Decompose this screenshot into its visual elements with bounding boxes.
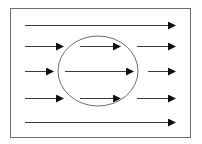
diagram-canvas: Flow lines around a circular obstacle bbox=[0, 0, 202, 144]
flow-arrows bbox=[25, 26, 175, 123]
frame-border bbox=[11, 9, 191, 138]
flow-diagram bbox=[0, 0, 202, 144]
